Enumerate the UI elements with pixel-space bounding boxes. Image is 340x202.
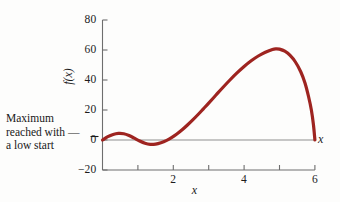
x-tick-label-2: 2	[163, 173, 183, 185]
axes-group	[103, 20, 315, 170]
x-axis-title: x	[185, 183, 205, 198]
y-tick-label-1: 60	[71, 43, 97, 55]
y-tick-label-0: 80	[71, 13, 97, 25]
y-tick-label-2: 40	[71, 73, 97, 85]
x-tick-label-4: 4	[234, 173, 254, 185]
x-tick-label-6: 6	[305, 173, 325, 185]
x-axis-end-label: x	[318, 132, 323, 147]
y-tick-label-3: 20	[71, 103, 97, 115]
plot-area	[0, 0, 340, 202]
curve-group	[103, 49, 315, 145]
series-curve-0	[103, 49, 315, 145]
y-tick-label-4: 0	[71, 133, 97, 145]
figure-root: Maximum reached with — a low start f(x) …	[0, 0, 340, 202]
y-tick-label-5: −20	[71, 163, 97, 175]
